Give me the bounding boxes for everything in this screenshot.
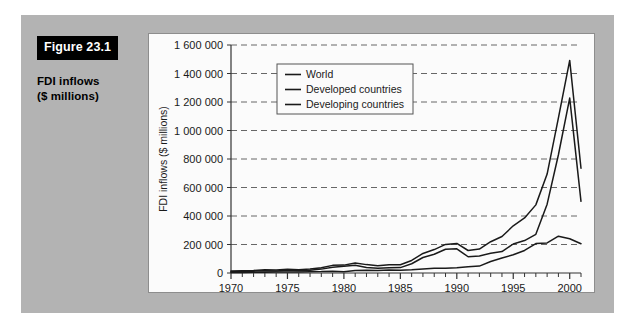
legend-label: World xyxy=(306,68,333,80)
figure-title: FDI inflows ($ millions) xyxy=(37,74,141,104)
x-tick-label: 1985 xyxy=(388,282,412,292)
figure-container: Figure 23.1 FDI inflows ($ millions) 020… xyxy=(0,0,634,330)
figure-number-tag: Figure 23.1 xyxy=(37,36,118,60)
series-line xyxy=(231,236,581,272)
x-tick-label: 2000 xyxy=(557,282,581,292)
y-tick-label: 1 000 000 xyxy=(174,125,223,137)
chart-legend: WorldDeveloped countriesDeveloping count… xyxy=(277,64,413,114)
x-axis: 1970197519801985199019952000 xyxy=(219,273,582,292)
x-tick-label: 1995 xyxy=(501,282,525,292)
legend-label: Developing countries xyxy=(306,98,404,110)
legend-label: Developed countries xyxy=(306,83,402,95)
x-tick-label: 1970 xyxy=(219,282,243,292)
y-axis-title-group: FDI inflows ($ millions) xyxy=(157,106,169,212)
figure-caption-block: Figure 23.1 FDI inflows ($ millions) xyxy=(37,36,141,104)
y-tick-label: 1 200 000 xyxy=(174,96,223,108)
x-tick-label: 1975 xyxy=(275,282,299,292)
x-tick-label: 1990 xyxy=(445,282,469,292)
y-tick-label: 800 000 xyxy=(183,153,223,165)
chart-card: 0200 000400 000600 000800 0001 000 0001 … xyxy=(148,33,595,293)
y-axis-title: FDI inflows ($ millions) xyxy=(157,106,169,212)
line-chart: 0200 000400 000600 000800 0001 000 0001 … xyxy=(149,34,594,292)
y-tick-label: 1 600 000 xyxy=(174,39,223,51)
figure-title-line-1: FDI inflows xyxy=(37,74,141,89)
y-tick-label: 0 xyxy=(217,267,223,279)
series-line xyxy=(231,98,581,272)
y-axis: 0200 000400 000600 000800 0001 000 0001 … xyxy=(174,39,231,279)
y-tick-label: 1 400 000 xyxy=(174,68,223,80)
figure-title-line-2: ($ millions) xyxy=(37,89,141,104)
y-tick-label: 600 000 xyxy=(183,182,223,194)
y-tick-label: 200 000 xyxy=(183,239,223,251)
x-tick-label: 1980 xyxy=(332,282,356,292)
y-tick-label: 400 000 xyxy=(183,210,223,222)
